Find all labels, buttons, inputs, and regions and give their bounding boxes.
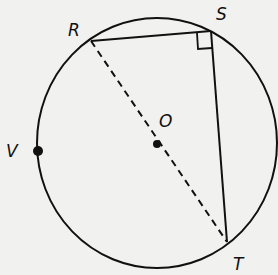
- circle-diagram: R S O V T: [0, 0, 278, 275]
- point-v: [33, 146, 43, 156]
- label-v: V: [6, 141, 19, 161]
- center-point-o: [153, 140, 161, 148]
- chord-rs: [91, 31, 211, 41]
- chord-st: [211, 31, 227, 242]
- label-r: R: [68, 20, 80, 40]
- label-t: T: [233, 254, 245, 274]
- label-s: S: [216, 4, 227, 24]
- label-o: O: [159, 111, 172, 131]
- right-angle-marker: [197, 33, 212, 49]
